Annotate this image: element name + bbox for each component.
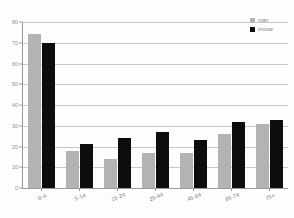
x-axis-labels: 0-45-1415-2425-4445-6465-7475+ bbox=[22, 190, 288, 216]
x-label-cell: 65-74 bbox=[212, 190, 250, 216]
x-tick-mark bbox=[231, 188, 232, 191]
x-tick-mark bbox=[117, 188, 118, 191]
bar-man[interactable] bbox=[104, 159, 117, 188]
bar-man[interactable] bbox=[28, 34, 41, 188]
bar-vrouw[interactable] bbox=[118, 138, 131, 188]
bar-group bbox=[212, 22, 250, 188]
bar-man[interactable] bbox=[66, 151, 79, 188]
legend-item-vrouw[interactable]: vrouw bbox=[250, 26, 273, 32]
bar-man[interactable] bbox=[218, 134, 231, 188]
chart-legend: man vrouw bbox=[250, 17, 273, 32]
x-tick-label: 75+ bbox=[265, 192, 276, 201]
x-tick-label: 5-14 bbox=[74, 192, 87, 202]
legend-label-vrouw: vrouw bbox=[258, 26, 273, 32]
y-tick-label: 30 bbox=[0, 123, 18, 129]
y-tick-label: 10 bbox=[0, 164, 18, 170]
x-tick-label: 45-64 bbox=[186, 191, 202, 202]
x-tick-label: 0-4 bbox=[37, 192, 47, 201]
bar-vrouw[interactable] bbox=[156, 132, 169, 188]
x-label-cell: 5-14 bbox=[60, 190, 98, 216]
x-label-cell: 0-4 bbox=[22, 190, 60, 216]
y-tick-label: 60 bbox=[0, 61, 18, 67]
bar-man[interactable] bbox=[142, 153, 155, 188]
y-axis-ticks: 01020304050607080 bbox=[0, 0, 20, 218]
x-tick-mark bbox=[193, 188, 194, 191]
x-label-cell: 45-64 bbox=[174, 190, 212, 216]
bar-vrouw[interactable] bbox=[194, 140, 207, 188]
bar-vrouw[interactable] bbox=[232, 122, 245, 188]
bar-group bbox=[174, 22, 212, 188]
bar-vrouw[interactable] bbox=[42, 43, 55, 188]
legend-swatch-man-icon bbox=[250, 18, 255, 23]
legend-item-man[interactable]: man bbox=[250, 17, 273, 23]
y-tick-label: 40 bbox=[0, 102, 18, 108]
bar-man[interactable] bbox=[180, 153, 193, 188]
x-tick-label: 25-44 bbox=[148, 191, 164, 202]
bar-groups bbox=[22, 22, 288, 188]
y-tick-label: 80 bbox=[0, 19, 18, 25]
y-tick-label: 20 bbox=[0, 144, 18, 150]
bar-group bbox=[98, 22, 136, 188]
bar-man[interactable] bbox=[256, 124, 269, 188]
bar-group bbox=[136, 22, 174, 188]
x-tick-mark bbox=[269, 188, 270, 191]
bar-chart: 01020304050607080 0-45-1415-2425-4445-64… bbox=[0, 0, 294, 218]
y-tick-label: 0 bbox=[0, 185, 18, 191]
bar-group bbox=[22, 22, 60, 188]
bar-vrouw[interactable] bbox=[270, 120, 283, 188]
x-tick-mark bbox=[79, 188, 80, 191]
x-tick-mark bbox=[155, 188, 156, 191]
bar-group bbox=[250, 22, 288, 188]
bar-vrouw[interactable] bbox=[80, 144, 93, 188]
x-tick-label: 15-24 bbox=[110, 191, 126, 202]
x-label-cell: 75+ bbox=[250, 190, 288, 216]
x-label-cell: 25-44 bbox=[136, 190, 174, 216]
x-label-cell: 15-24 bbox=[98, 190, 136, 216]
y-tick-label: 50 bbox=[0, 81, 18, 87]
x-tick-mark bbox=[41, 188, 42, 191]
bar-group bbox=[60, 22, 98, 188]
legend-label-man: man bbox=[258, 17, 269, 23]
y-tick-label: 70 bbox=[0, 40, 18, 46]
legend-swatch-vrouw-icon bbox=[250, 27, 255, 32]
x-tick-label: 65-74 bbox=[224, 191, 240, 202]
